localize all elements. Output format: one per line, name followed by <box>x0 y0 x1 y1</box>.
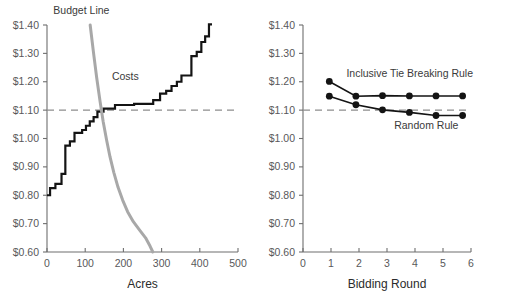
acres-cost-chart: $0.60$0.70$0.80$0.90$1.00$1.10$1.20$1.30… <box>0 0 254 307</box>
data-point-marker[interactable] <box>353 93 360 100</box>
budget-line-label: Budget Line <box>53 4 109 16</box>
y-tick-label: $0.70 <box>269 217 295 229</box>
y-tick-label: $1.20 <box>269 75 295 87</box>
y-tick-label: $1.00 <box>269 132 295 144</box>
y-tick-label: $0.90 <box>13 160 39 172</box>
x-tick-label: 4 <box>412 257 418 269</box>
y-tick-label: $0.90 <box>269 160 295 172</box>
x-tick-label: 2 <box>356 257 362 269</box>
budget-line-curve <box>90 25 153 252</box>
series-line-1 <box>329 81 462 96</box>
data-point-marker[interactable] <box>326 78 333 85</box>
chart-panel-bidding-round: $0.60$0.70$0.80$0.90$1.00$1.10$1.20$1.30… <box>255 0 509 307</box>
inclusive-tie-breaking-rule-label: Inclusive Tie Breaking Rule <box>346 67 473 79</box>
data-point-marker[interactable] <box>406 93 413 100</box>
y-tick-label: $1.10 <box>13 104 39 116</box>
chart-panel-acres: $0.60$0.70$0.80$0.90$1.00$1.10$1.20$1.30… <box>0 0 254 307</box>
series-line-2 <box>329 96 462 115</box>
x-tick-label: 300 <box>153 257 171 269</box>
y-tick-label: $1.20 <box>13 75 39 87</box>
y-tick-label: $0.70 <box>13 217 39 229</box>
bidding-round-chart: $0.60$0.70$0.80$0.90$1.00$1.10$1.20$1.30… <box>255 0 509 307</box>
x-tick-label: 400 <box>191 257 209 269</box>
data-point-marker[interactable] <box>379 106 386 113</box>
y-tick-label: $0.60 <box>269 246 295 258</box>
y-tick-label: $1.00 <box>13 132 39 144</box>
x-tick-label: 500 <box>229 257 247 269</box>
y-tick-label: $1.30 <box>13 47 39 59</box>
x-tick-label: 100 <box>76 257 94 269</box>
figure-container: $0.60$0.70$0.80$0.90$1.00$1.10$1.20$1.30… <box>0 0 509 307</box>
costs-label: Costs <box>112 70 139 82</box>
y-tick-label: $1.40 <box>269 19 295 31</box>
data-point-marker[interactable] <box>379 92 386 99</box>
x-axis-title: Acres <box>127 277 158 291</box>
data-point-marker[interactable] <box>326 93 333 100</box>
x-tick-label: 3 <box>384 257 390 269</box>
x-tick-label: 200 <box>115 257 133 269</box>
x-axis-title: Bidding Round <box>348 277 427 291</box>
x-tick-label: 0 <box>300 257 306 269</box>
y-tick-label: $1.40 <box>13 19 39 31</box>
y-tick-label: $0.80 <box>269 189 295 201</box>
y-tick-label: $1.10 <box>269 104 295 116</box>
y-tick-label: $0.80 <box>13 189 39 201</box>
random-rule-label: Random Rule <box>394 119 458 131</box>
data-point-marker[interactable] <box>459 112 466 119</box>
data-point-marker[interactable] <box>353 101 360 108</box>
x-tick-label: 0 <box>44 257 50 269</box>
x-tick-label: 6 <box>468 257 474 269</box>
x-tick-label: 1 <box>328 257 334 269</box>
data-point-marker[interactable] <box>406 109 413 116</box>
x-tick-label: 5 <box>440 257 446 269</box>
data-point-marker[interactable] <box>459 93 466 100</box>
y-tick-label: $0.60 <box>13 246 39 258</box>
y-tick-label: $1.30 <box>269 47 295 59</box>
data-point-marker[interactable] <box>433 93 440 100</box>
